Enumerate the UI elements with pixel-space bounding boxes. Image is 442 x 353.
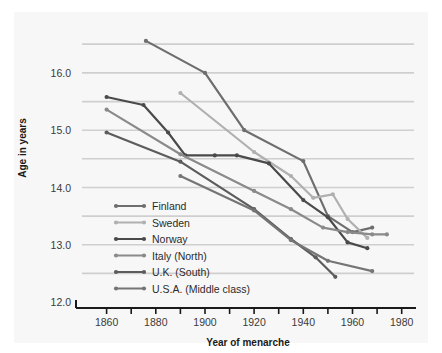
y-tick-label: 15.0: [51, 124, 72, 136]
data-point: [235, 153, 239, 157]
legend-item-sweden: Sweden: [114, 217, 190, 229]
data-point: [326, 259, 330, 263]
y-tick-label: 14.0: [51, 182, 72, 194]
x-axis: [76, 300, 416, 314]
x-tick-label: 1980: [390, 316, 414, 328]
legend-label: U.S.A. (Middle class): [152, 283, 250, 295]
menarche-age-line-chart: 12.013.014.015.016.0 1860188019001920194…: [0, 0, 442, 353]
x-axis-title: Year of menarche: [206, 337, 290, 348]
legend-marker: [114, 237, 118, 241]
legend-label: Sweden: [152, 217, 190, 229]
data-point: [252, 150, 256, 154]
data-point: [331, 192, 335, 196]
data-point: [321, 226, 325, 230]
chart-figure: 12.013.014.015.016.0 1860188019001920194…: [0, 0, 442, 353]
legend-item-norway: Norway: [114, 233, 188, 245]
series-sweden: [178, 91, 369, 240]
legend-label: Norway: [152, 233, 188, 245]
x-tick-label: 1960: [341, 316, 365, 328]
data-point: [370, 232, 374, 236]
legend-marker: [142, 253, 146, 257]
legend-item-u-s-a-middle-class: U.S.A. (Middle class): [114, 283, 250, 295]
data-point: [178, 152, 182, 156]
y-tick-label: 12.0: [51, 296, 72, 308]
legend-item-finland: Finland: [114, 200, 187, 212]
legend-label: Italy (North): [152, 250, 207, 262]
data-point: [166, 130, 170, 134]
data-point: [144, 39, 148, 43]
data-point: [370, 226, 374, 230]
data-point: [385, 232, 389, 236]
data-point: [289, 207, 293, 211]
data-point: [289, 238, 293, 242]
y-tick-labels: 12.013.014.015.016.0: [51, 67, 72, 308]
legend-marker: [114, 270, 118, 274]
legend-marker: [114, 286, 118, 290]
x-tick-label: 1860: [95, 316, 119, 328]
legend-marker: [114, 253, 118, 257]
data-point: [178, 174, 182, 178]
data-point: [213, 153, 217, 157]
legend-item-u-k-south: U.K. (South): [114, 266, 210, 278]
data-point: [365, 246, 369, 250]
legend-marker: [142, 270, 146, 274]
data-point: [346, 230, 350, 234]
data-point: [252, 189, 256, 193]
data-point: [178, 91, 182, 95]
legend-marker: [114, 220, 118, 224]
legend-marker: [142, 286, 146, 290]
data-point: [326, 215, 330, 219]
series-u-k-south: [105, 130, 338, 279]
data-point: [311, 196, 315, 200]
legend-marker: [142, 220, 146, 224]
data-point: [105, 95, 109, 99]
data-point: [301, 159, 305, 163]
data-point: [301, 198, 305, 202]
series-line: [180, 176, 372, 271]
x-tick-label: 1900: [193, 316, 217, 328]
data-point: [141, 103, 145, 107]
data-point: [178, 160, 182, 164]
data-point: [105, 108, 109, 112]
data-point: [267, 161, 271, 165]
legend-label: Finland: [152, 200, 187, 212]
data-point: [346, 217, 350, 221]
legend-label: U.K. (South): [152, 266, 210, 278]
y-tick-label: 13.0: [51, 239, 72, 251]
legend-item-italy-north: Italy (North): [114, 250, 207, 262]
data-point: [242, 128, 246, 132]
x-tick-label: 1920: [242, 316, 266, 328]
data-point: [203, 71, 207, 75]
data-point: [105, 130, 109, 134]
legend-marker: [114, 204, 118, 208]
x-tick-label: 1940: [292, 316, 316, 328]
data-point: [289, 174, 293, 178]
data-point: [333, 275, 337, 279]
data-point: [370, 269, 374, 273]
data-point: [365, 236, 369, 240]
legend-marker: [142, 237, 146, 241]
data-point: [252, 208, 256, 212]
x-tick-labels: 1860188019001920194019601980: [95, 316, 414, 328]
legend: FinlandSwedenNorwayItaly (North)U.K. (So…: [114, 200, 250, 295]
series-u-s-a-middle-class: [178, 174, 374, 273]
legend-marker: [142, 204, 146, 208]
data-point: [346, 240, 350, 244]
x-tick-label: 1880: [144, 316, 168, 328]
y-tick-label: 16.0: [51, 67, 72, 79]
y-axis-title: Age in years: [17, 118, 28, 178]
